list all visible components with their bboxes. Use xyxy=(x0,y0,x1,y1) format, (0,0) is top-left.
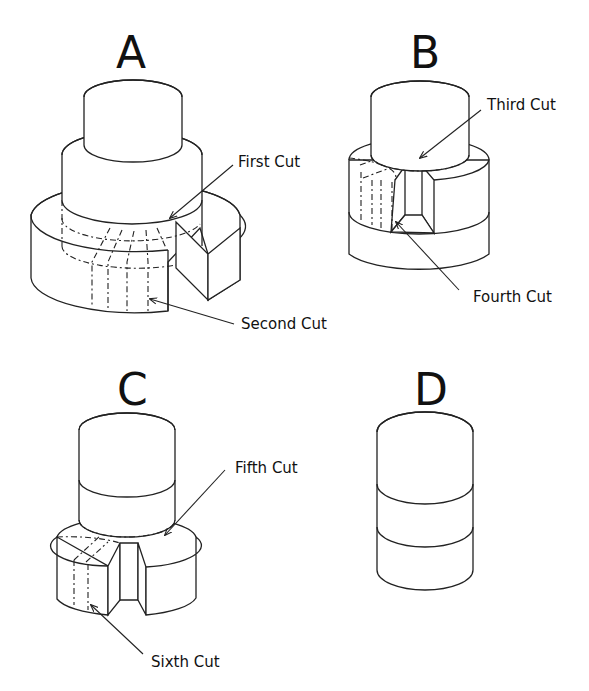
cake-cutting-diagram: A xyxy=(0,0,589,691)
panel-d-stacked-cylinder xyxy=(377,412,473,590)
first-cut-label: First Cut xyxy=(238,153,300,171)
panel-c-upper-tiers xyxy=(79,413,175,537)
panel-c-letter: C xyxy=(117,364,148,415)
panel-b: B Third Cut xyxy=(349,27,556,306)
panel-a: A xyxy=(31,27,327,333)
second-cut-label: Second Cut xyxy=(241,315,327,333)
third-cut-label: Third Cut xyxy=(486,96,556,114)
fourth-cut-label: Fourth Cut xyxy=(473,288,552,306)
sixth-cut-arrow xyxy=(91,605,143,654)
panel-a-letter: A xyxy=(116,27,146,78)
sixth-cut-label: Sixth Cut xyxy=(151,653,220,671)
panel-d-letter: D xyxy=(414,364,448,415)
fifth-cut-label: Fifth Cut xyxy=(235,459,298,477)
panel-a-top-tier xyxy=(84,80,182,162)
panel-c: C Fifth Cut Sixth Cut xyxy=(51,364,298,671)
panel-b-letter: B xyxy=(410,27,440,78)
panel-d: D xyxy=(377,364,473,590)
